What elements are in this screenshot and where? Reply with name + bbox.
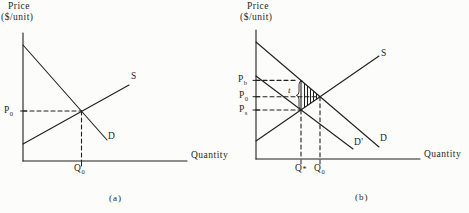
panel-b-caption: (b) [355,192,369,203]
a-price-axis-label: Price [8,1,30,12]
b-q0-quantity-label: Q0 [314,163,325,177]
b-demand-after-tax-curve-label: D' [354,137,364,148]
b-p0-price-label: P0 [239,90,248,104]
panel-b-plot [253,30,420,164]
b-supply-curve [256,56,379,141]
b-welfare-loss-hatched-triangle [302,81,320,109]
b-quantity-axis-label: Quantity [424,149,461,160]
panel-a-plot [21,33,188,166]
b-price-unit-label: ($/unit) [240,12,273,23]
a-demand-curve-label: D [108,131,115,142]
b-price-axis-label: Price [247,1,269,12]
a-p0-price-label: P0 [4,105,13,119]
a-supply-curve-label: S [131,71,137,82]
b-supply-curve-label: S [381,48,387,59]
figure-linework [0,0,469,213]
a-quantity-axis-label: Quantity [191,150,228,161]
b-demand-curve-label: D [380,133,387,144]
a-demand-curve [23,45,107,140]
b-qstar-quantity-label: Q* [295,163,306,175]
a-price-unit-label: ($/unit) [1,12,34,23]
supply-demand-tax-figure: Price ($/unit) Quantity S D P0 Q0 (a) Pr… [0,0,469,213]
a-q0-quantity-label: Q0 [74,163,85,177]
b-tax-amount-label: t [288,85,291,96]
b-ps-price-label: Ps [239,104,247,118]
b-demand-curve [256,42,379,147]
panel-a-caption: (a) [109,193,122,204]
b-pb-price-label: Pb [238,74,247,88]
